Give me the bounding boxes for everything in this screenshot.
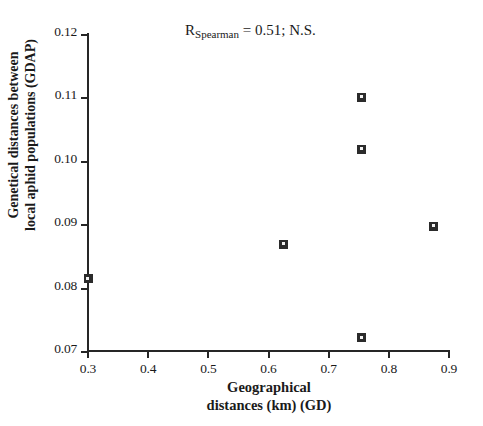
y-tick-label: 0.11 xyxy=(55,87,77,103)
data-point xyxy=(84,274,93,283)
data-point xyxy=(357,145,366,154)
x-axis-title: Geographical distances (km) (GD) xyxy=(88,378,450,414)
x-tick-mark xyxy=(87,351,89,358)
y-tick-mark xyxy=(81,224,88,226)
data-point xyxy=(429,222,438,231)
y-axis-title: Genetical distances between local aphid … xyxy=(5,0,39,285)
x-tick-label: 0.7 xyxy=(309,361,349,377)
y-tick-mark xyxy=(81,97,88,99)
data-point xyxy=(357,333,366,342)
x-tick-mark xyxy=(448,351,450,358)
x-tick-mark xyxy=(268,351,270,358)
x-tick-label: 0.3 xyxy=(68,361,108,377)
x-tick-label: 0.4 xyxy=(128,361,168,377)
x-tick-mark xyxy=(207,351,209,358)
y-tick-mark xyxy=(81,161,88,163)
y-tick-mark xyxy=(81,34,88,36)
x-tick-mark xyxy=(388,351,390,358)
scatter-plot-figure: RSpearman = 0.51; N.S. 0.070.080.090.100… xyxy=(0,0,483,426)
x-tick-label: 0.9 xyxy=(429,361,469,377)
plot-area xyxy=(88,34,449,351)
x-tick-mark xyxy=(328,351,330,358)
y-tick-label: 0.09 xyxy=(54,214,77,230)
data-point xyxy=(357,93,366,102)
y-tick-label: 0.12 xyxy=(54,24,77,40)
x-tick-label: 0.6 xyxy=(249,361,289,377)
y-tick-label: 0.07 xyxy=(54,341,77,357)
y-tick-mark xyxy=(81,288,88,290)
y-tick-label: 0.08 xyxy=(54,278,77,294)
x-tick-mark xyxy=(147,351,149,358)
x-tick-label: 0.5 xyxy=(188,361,228,377)
x-tick-label: 0.8 xyxy=(369,361,409,377)
data-point xyxy=(279,240,288,249)
y-tick-label: 0.10 xyxy=(54,151,77,167)
